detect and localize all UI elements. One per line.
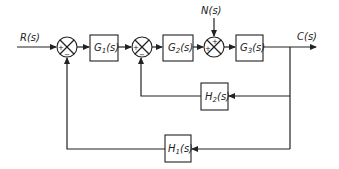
summing-junction-1: + − [57, 37, 77, 59]
block-g3: G3(s) [236, 35, 265, 61]
output-signal: C(s) [263, 31, 317, 47]
disturbance-label: N(s) [201, 5, 222, 16]
block-g2: G2(s) [163, 35, 193, 61]
input-signal: R(s) [17, 32, 56, 47]
inner-feedback-loop: H2(s) [141, 58, 290, 110]
wire-h2-s2 [141, 58, 201, 96]
summing-junction-3: + + [204, 37, 224, 57]
outer-feedback-loop: H1(s) [67, 58, 290, 162]
minus-sign: − [64, 51, 70, 59]
input-label: R(s) [20, 32, 40, 43]
plus-sign: + [212, 38, 218, 46]
wire-h1-s1 [67, 58, 165, 149]
plus-sign: + [205, 45, 211, 53]
minus-sign: − [139, 51, 145, 59]
block-g1: G1(s) [90, 35, 119, 61]
disturbance-signal: N(s) [201, 5, 222, 36]
output-label: C(s) [297, 31, 317, 42]
block-diagram: R(s) + − G1(s) + − G2(s) N(s) + [0, 0, 339, 169]
summing-junction-2: + − [132, 37, 152, 59]
